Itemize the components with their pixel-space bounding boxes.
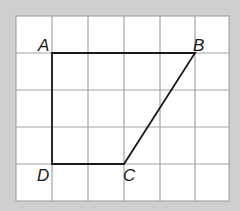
grid-figure: A B C D: [0, 0, 240, 211]
vertex-label-d: D: [37, 166, 49, 185]
vertex-label-b: B: [193, 36, 204, 55]
vertex-label-c: C: [123, 166, 136, 185]
vertex-label-a: A: [37, 36, 49, 55]
